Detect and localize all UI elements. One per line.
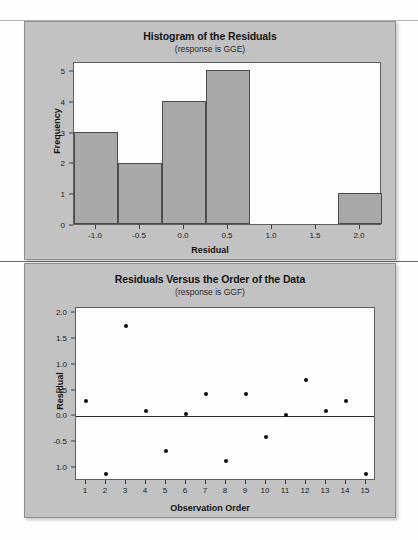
residuals-order-x-tick-mark xyxy=(105,480,106,484)
residuals-order-x-tick-label: 15 xyxy=(361,486,370,495)
residuals-order-x-tick-label: 12 xyxy=(301,486,310,495)
histogram-panel: Histogram of the Residuals (response is … xyxy=(24,21,396,260)
residuals-order-panel: Residuals Versus the Order of the Data (… xyxy=(24,263,396,518)
residuals-order-title: Residuals Versus the Order of the Data xyxy=(25,273,395,285)
histogram-x-tick-mark xyxy=(359,225,360,229)
histogram-y-tick-label: 0 xyxy=(61,221,65,230)
histogram-x-tick-label: 1.5 xyxy=(309,231,320,240)
residual-data-point xyxy=(84,399,88,403)
histogram-x-tick-mark xyxy=(227,225,228,229)
histogram-x-tick-mark xyxy=(95,225,96,229)
residuals-order-y-tick-label: 2.0 xyxy=(56,308,67,317)
residual-data-point xyxy=(344,399,348,403)
histogram-x-tick-mark xyxy=(139,225,140,229)
residuals-order-x-tick-label: 11 xyxy=(281,486,289,495)
histogram-x-tick-label: -1.0 xyxy=(88,231,102,240)
histogram-x-tick-label: 1.0 xyxy=(265,231,276,240)
residuals-order-x-tick-mark xyxy=(285,480,286,484)
residual-data-point xyxy=(164,449,168,453)
residuals-order-x-tick-mark xyxy=(85,480,86,484)
histogram-x-tick-label: 0.5 xyxy=(221,231,232,240)
residuals-order-x-tick-label: 13 xyxy=(321,486,330,495)
histogram-bar xyxy=(162,101,206,224)
residuals-order-x-tick-mark xyxy=(265,480,266,484)
residuals-order-x-tick-mark xyxy=(145,480,146,484)
histogram-x-tick-mark xyxy=(183,225,184,229)
residuals-order-subtitle: (response is GGF) xyxy=(25,287,395,297)
residual-data-point xyxy=(324,409,328,413)
residuals-order-x-tick-mark xyxy=(125,480,126,484)
residuals-order-x-tick-mark xyxy=(205,480,206,484)
histogram-plot-area xyxy=(73,62,381,225)
histogram-y-tick-label: 1 xyxy=(61,190,65,199)
zero-reference-line xyxy=(76,416,374,417)
residuals-order-x-tick-label: 3 xyxy=(123,486,127,495)
residual-data-point xyxy=(304,378,308,382)
residual-data-point xyxy=(104,472,108,476)
residuals-order-x-tick-label: 2 xyxy=(103,486,107,495)
page-root: Histogram of the Residuals (response is … xyxy=(0,0,418,540)
residual-data-point xyxy=(364,472,368,476)
residuals-order-x-tick-mark xyxy=(305,480,306,484)
residuals-order-x-tick-mark xyxy=(325,480,326,484)
residual-data-point xyxy=(224,459,228,463)
histogram-x-tick-label: -0.5 xyxy=(132,231,146,240)
middle-divider-rule xyxy=(0,261,418,262)
histogram-title: Histogram of the Residuals xyxy=(25,30,395,42)
residuals-order-x-tick-label: 4 xyxy=(143,486,147,495)
histogram-bar xyxy=(206,70,250,224)
residuals-order-x-tick-mark xyxy=(185,480,186,484)
histogram-x-axis-title: Residual xyxy=(25,245,395,255)
residuals-order-x-tick-label: 10 xyxy=(261,486,270,495)
residuals-order-x-tick-mark xyxy=(225,480,226,484)
residual-data-point xyxy=(204,392,208,396)
residuals-order-x-tick-mark xyxy=(365,480,366,484)
residuals-order-plot-area xyxy=(75,307,375,480)
histogram-subtitle: (response is GGE) xyxy=(25,44,395,54)
histogram-x-tick-mark xyxy=(271,225,272,229)
residuals-order-x-tick-label: 9 xyxy=(243,486,247,495)
histogram-y-tick-label: 5 xyxy=(61,67,65,76)
residual-data-point xyxy=(124,324,128,328)
histogram-bar xyxy=(74,132,118,224)
residuals-order-x-axis-title: Observation Order xyxy=(25,503,395,513)
residuals-order-x-tick-label: 5 xyxy=(163,486,167,495)
residuals-order-y-tick-label: 1.0 xyxy=(56,463,67,472)
residuals-order-x-tick-label: 6 xyxy=(183,486,187,495)
residuals-order-x-tick-label: 14 xyxy=(341,486,350,495)
residual-data-point xyxy=(244,392,248,396)
residual-data-point xyxy=(184,412,188,416)
residuals-order-x-tick-label: 8 xyxy=(223,486,227,495)
histogram-x-tick-label: 2.0 xyxy=(353,231,364,240)
histogram-y-axis-title: Frequency xyxy=(52,96,62,166)
residuals-order-x-tick-label: 1 xyxy=(83,486,87,495)
residuals-order-y-tick-label: -0.5 xyxy=(53,437,67,446)
histogram-x-tick-mark xyxy=(315,225,316,229)
histogram-bar xyxy=(118,163,162,225)
histogram-bar xyxy=(338,193,382,224)
residuals-order-x-tick-mark xyxy=(245,480,246,484)
residual-data-point xyxy=(144,409,148,413)
histogram-x-tick-label: 0.0 xyxy=(177,231,188,240)
residual-data-point xyxy=(284,413,288,417)
residual-data-point xyxy=(264,435,268,439)
residuals-order-x-tick-mark xyxy=(345,480,346,484)
residuals-order-y-tick-label: 1.5 xyxy=(56,333,67,342)
residuals-order-x-tick-mark xyxy=(165,480,166,484)
residuals-order-x-tick-label: 7 xyxy=(203,486,207,495)
residuals-order-y-axis-title: Residual xyxy=(55,356,65,426)
